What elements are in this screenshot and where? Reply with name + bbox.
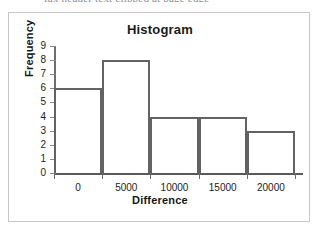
scanned-header-artifact: fax header text clipped at page edge (44, 0, 259, 2)
x-tick-0 (102, 173, 103, 179)
histogram-bar (102, 60, 150, 173)
plot-area: 0123456789 05000100001500020000 (54, 47, 295, 174)
x-tick-label-0: 0 (75, 183, 81, 193)
y-axis-title: Frequency (23, 20, 35, 77)
x-axis-title: Difference (9, 194, 311, 206)
y-tick-label-2: 2 (40, 140, 46, 150)
y-tick-7: 7 (50, 74, 56, 75)
x-tick-4 (295, 173, 296, 179)
y-tick-label-1: 1 (40, 154, 46, 164)
x-axis-line (54, 173, 303, 175)
x-tick-origin (54, 173, 55, 179)
histogram-chart-frame: Histogram 0123456789 0500010000150002000… (8, 12, 310, 222)
y-tick-label-7: 7 (40, 69, 46, 79)
x-tick-label-20000: 20000 (257, 183, 285, 193)
histogram-bar (54, 88, 102, 173)
y-tick-9: 9 (50, 46, 56, 47)
x-tick-1 (150, 173, 151, 179)
chart-title: Histogram (9, 22, 311, 37)
y-tick-label-9: 9 (40, 41, 46, 51)
y-tick-label-6: 6 (40, 83, 46, 93)
y-tick-label-0: 0 (40, 168, 46, 178)
histogram-bar (247, 131, 295, 173)
x-tick-2 (199, 173, 200, 179)
y-tick-label-5: 5 (40, 97, 46, 107)
y-tick-0: 0 (50, 173, 56, 174)
y-tick-label-3: 3 (40, 126, 46, 136)
x-tick-label-15000: 15000 (209, 183, 237, 193)
y-tick-label-4: 4 (40, 112, 46, 122)
y-tick-8: 8 (50, 60, 56, 61)
x-tick-3 (247, 173, 248, 179)
histogram-bar (150, 117, 198, 173)
x-tick-label-5000: 5000 (115, 183, 137, 193)
x-tick-label-10000: 10000 (161, 183, 189, 193)
histogram-bar (199, 117, 247, 173)
y-tick-label-8: 8 (40, 55, 46, 65)
